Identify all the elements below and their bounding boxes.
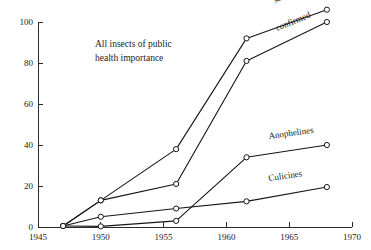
marker-confirmed-1961.6 <box>244 58 249 63</box>
marker-Culicines-1950 <box>98 214 103 219</box>
y-tick-label-100: 100 <box>20 17 34 27</box>
chart-container: 020406080100194519501955196019651970 sus… <box>0 0 371 250</box>
series-line-Anophelines <box>63 145 327 226</box>
x-tick-label-1960: 1960 <box>217 232 236 242</box>
x-tick-label-1950: 1950 <box>92 232 111 242</box>
annotation-line-1: All insects of public <box>95 39 172 49</box>
series-label-suspected: suspected <box>272 0 309 5</box>
series-line-Culicines <box>63 187 327 226</box>
chart-annotation: All insects of public health importance <box>95 39 172 63</box>
marker-confirmed-1968 <box>324 19 329 24</box>
marker-Culicines-1961.6 <box>244 199 249 204</box>
marker-Culicines-1947 <box>61 223 66 228</box>
x-tick-label-1965: 1965 <box>280 232 299 242</box>
series-label-confirmed: confirmed <box>274 10 313 33</box>
annotation-line-2: health importance <box>95 53 163 63</box>
x-tick-label-1955: 1955 <box>155 232 174 242</box>
marker-suspected-1961.6 <box>244 36 249 41</box>
marker-Anophelines-1956 <box>174 218 179 223</box>
marker-confirmed-1956 <box>174 181 179 186</box>
x-tick-label-1945: 1945 <box>29 232 48 242</box>
marker-confirmed-1950 <box>98 198 103 203</box>
x-tick-label-1970: 1970 <box>343 232 362 242</box>
marker-Culicines-1956 <box>174 206 179 211</box>
marker-suspected-1968 <box>324 7 329 12</box>
marker-Anophelines-1961.6 <box>244 155 249 160</box>
marker-Culicines-1968 <box>324 184 329 189</box>
marker-Anophelines-1950 <box>98 224 103 229</box>
marker-suspected-1956 <box>174 147 179 152</box>
y-tick-label-40: 40 <box>24 140 34 150</box>
line-chart-figure: 020406080100194519501955196019651970 sus… <box>0 0 371 250</box>
series-label-Anophelines: Anophelines <box>268 125 315 141</box>
y-tick-label-80: 80 <box>24 58 34 68</box>
y-tick-label-60: 60 <box>24 99 34 109</box>
series-labels: suspectedconfirmedAnophelinesCulicines <box>268 0 315 183</box>
series-label-Culicines: Culicines <box>268 168 304 183</box>
y-tick-label-0: 0 <box>29 222 34 232</box>
y-tick-label-20: 20 <box>24 181 34 191</box>
marker-Anophelines-1968 <box>324 142 329 147</box>
